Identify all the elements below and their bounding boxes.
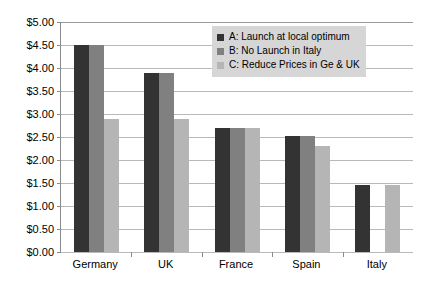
gridline — [61, 252, 413, 253]
chart-legend: A: Launch at local optimum B: No Launch … — [212, 26, 366, 77]
legend-label-a: A: Launch at local optimum — [229, 32, 350, 42]
bar-italy-c — [385, 185, 400, 252]
x-axis-label-germany: Germany — [60, 258, 130, 278]
bar-germany-b — [89, 45, 104, 252]
y-axis-label: $0.00 — [0, 247, 54, 258]
bar-spain-c — [315, 146, 330, 252]
y-axis-label: $1.50 — [0, 178, 54, 189]
bar-italy-a — [355, 185, 370, 252]
bar-group — [131, 22, 201, 252]
y-axis-tick — [57, 252, 61, 253]
x-axis-tick — [343, 252, 344, 257]
bar-uk-c — [174, 119, 189, 252]
x-axis-labels: GermanyUKFranceSpainItaly — [60, 258, 412, 278]
bar-uk-b — [159, 73, 174, 252]
bar-germany-c — [104, 119, 119, 252]
legend-label-b: B: No Launch in Italy — [229, 46, 321, 56]
y-axis-label: $0.50 — [0, 224, 54, 235]
bar-uk-a — [144, 73, 159, 252]
legend-item-a: A: Launch at local optimum — [217, 30, 360, 44]
y-axis-label: $1.00 — [0, 201, 54, 212]
legend-item-c: C: Reduce Prices in Ge & UK — [217, 58, 360, 72]
bar-france-b — [230, 128, 245, 252]
legend-swatch-c-icon — [217, 62, 224, 69]
y-axis-label: $3.50 — [0, 86, 54, 97]
x-axis-label-spain: Spain — [271, 258, 341, 278]
x-axis-tick — [202, 252, 203, 257]
x-axis-tick — [272, 252, 273, 257]
x-axis-tick — [131, 252, 132, 257]
y-axis-label: $4.00 — [0, 63, 54, 74]
bar-spain-b — [300, 136, 315, 252]
x-axis-label-italy: Italy — [342, 258, 412, 278]
legend-swatch-b-icon — [217, 48, 224, 55]
bar-spain-a — [285, 136, 300, 252]
y-axis-label: $4.50 — [0, 40, 54, 51]
x-axis-label-france: France — [201, 258, 271, 278]
legend-swatch-a-icon — [217, 34, 224, 41]
bar-chart: $5.00$4.50$4.00$3.50$3.00$2.50$2.00$1.50… — [0, 0, 425, 291]
y-axis-label: $2.00 — [0, 155, 54, 166]
y-axis-label: $2.50 — [0, 132, 54, 143]
y-axis-label: $5.00 — [0, 17, 54, 28]
bar-france-a — [215, 128, 230, 252]
bar-germany-a — [74, 45, 89, 252]
bar-group — [61, 22, 131, 252]
legend-item-b: B: No Launch in Italy — [217, 44, 360, 58]
y-axis-label: $3.00 — [0, 109, 54, 120]
x-axis-label-uk: UK — [130, 258, 200, 278]
legend-label-c: C: Reduce Prices in Ge & UK — [229, 60, 360, 70]
bar-france-c — [245, 128, 260, 252]
